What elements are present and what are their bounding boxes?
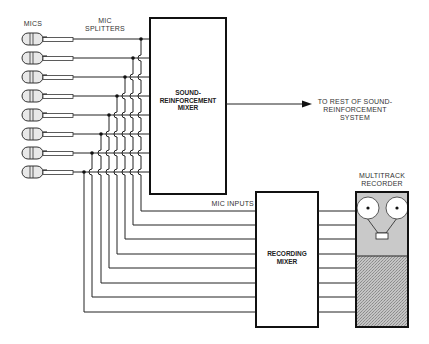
recorder-label-line2: RECORDER xyxy=(350,180,414,188)
mic-splitters-label: MIC SPLITTERS xyxy=(80,17,130,33)
output-destination-label: TO REST OF SOUND- REINFORCEMENT SYSTEM xyxy=(310,98,400,122)
mic-splitters-label-line2: SPLITTERS xyxy=(80,25,130,33)
mic-inputs-label: MIC INPUTS xyxy=(200,200,254,208)
output-label-line2: REINFORCEMENT xyxy=(310,106,400,114)
sr-mixer-label-line3: MIXER xyxy=(150,104,226,112)
mic-splitters-label-line1: MIC xyxy=(80,17,130,25)
recording-mixer-label-line1: RECORDING xyxy=(256,250,318,258)
recording-mixer-label-line2: MIXER xyxy=(256,258,318,266)
tape-head-icon xyxy=(376,233,388,239)
output-label-line3: SYSTEM xyxy=(310,114,400,122)
multitrack-recorder-label: MULTITRACK RECORDER xyxy=(350,172,414,188)
sound-reinforcement-mixer-label: SOUND- REINFORCEMENT MIXER xyxy=(150,89,226,112)
sr-mixer-label-line2: REINFORCEMENT xyxy=(150,97,226,105)
mic-group xyxy=(22,33,73,178)
output-label-line1: TO REST OF SOUND- xyxy=(310,98,400,106)
recording-mixer-outputs xyxy=(318,211,356,312)
mics-label: MICS xyxy=(18,20,48,28)
multitrack-recorder xyxy=(356,192,408,327)
sr-mixer-label-line1: SOUND- xyxy=(150,89,226,97)
recorder-label-line1: MULTITRACK xyxy=(350,172,414,180)
recording-mixer-label: RECORDING MIXER xyxy=(256,250,318,265)
output-arrow xyxy=(226,101,312,108)
